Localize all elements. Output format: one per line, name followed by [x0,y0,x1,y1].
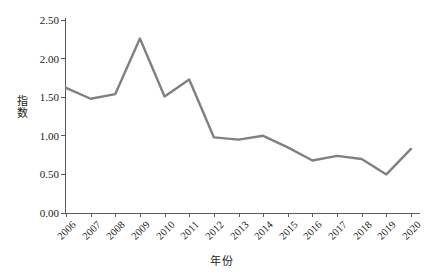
x-tick-mark [189,213,190,217]
x-tick-mark [312,213,313,217]
x-tick-mark [263,213,264,217]
x-tick-mark [165,213,166,217]
x-tick-mark [288,213,289,217]
x-tick-mark [66,213,67,217]
x-tick-mark [337,213,338,217]
x-tick-mark [140,213,141,217]
x-tick-mark [362,213,363,217]
x-tick-mark [386,213,387,217]
x-tick-mark [239,213,240,217]
x-tick-mark [91,213,92,217]
chart-figure: 指数 年份 0.000.501.001.502.002.50 200620072… [0,0,444,273]
x-tick-mark [214,213,215,217]
x-tick-mark [115,213,116,217]
x-tick-mark [411,213,412,217]
series-line-indices [66,39,411,175]
